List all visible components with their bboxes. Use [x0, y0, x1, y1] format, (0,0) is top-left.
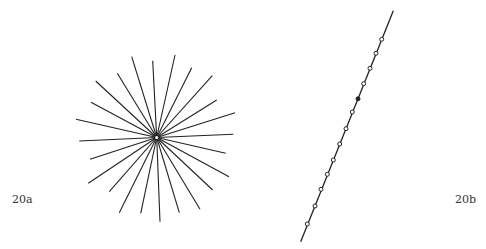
- open-point: [380, 37, 384, 41]
- ray-line: [157, 138, 160, 222]
- open-point: [362, 82, 366, 86]
- figure-canvas: 20a 20b: [0, 0, 486, 249]
- figure-label-20b: 20b: [455, 193, 476, 206]
- figure-20a-radial-lines: [76, 55, 235, 222]
- open-point: [305, 222, 309, 226]
- figure-label-20a: 20a: [12, 193, 33, 206]
- center-point: [155, 135, 159, 139]
- ray-line: [157, 134, 234, 137]
- figure-20b-collinear-points: [301, 11, 394, 242]
- open-point: [374, 51, 378, 55]
- open-point: [350, 110, 354, 114]
- ray-line: [119, 138, 156, 213]
- open-point: [338, 142, 342, 146]
- ray-line: [141, 138, 157, 214]
- ray-line: [79, 138, 156, 142]
- ray-line: [117, 73, 156, 137]
- open-point: [331, 158, 335, 162]
- ray-line: [157, 55, 175, 138]
- ray-line: [157, 138, 200, 210]
- filled-point: [356, 97, 360, 101]
- ray-line: [76, 119, 157, 137]
- open-point: [319, 187, 323, 191]
- open-point: [368, 66, 372, 70]
- open-point: [313, 204, 317, 208]
- open-point: [344, 127, 348, 131]
- ray-line: [157, 138, 226, 154]
- open-point: [325, 172, 329, 176]
